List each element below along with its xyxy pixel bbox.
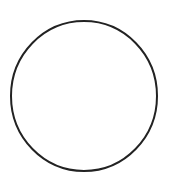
diagram-canvas [0,0,174,179]
circle-shape [11,21,157,171]
